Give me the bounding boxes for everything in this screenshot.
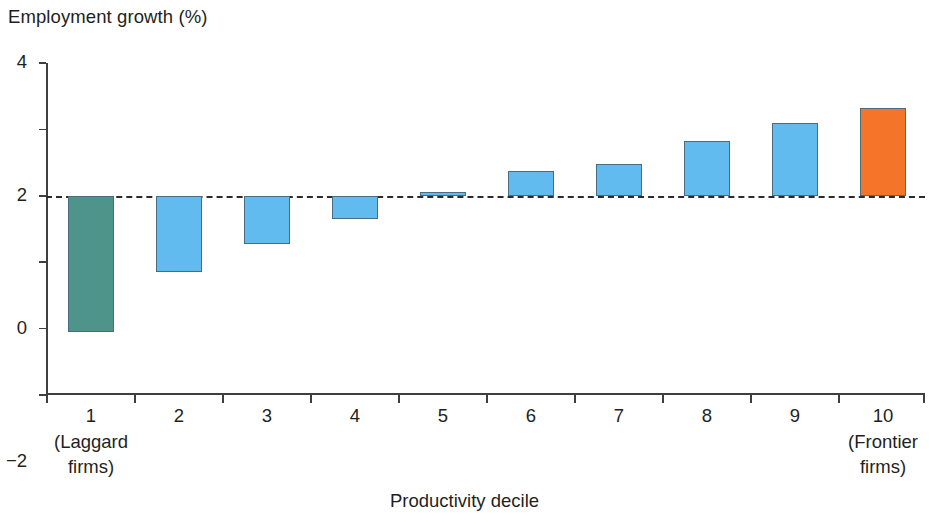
x-tick-8 bbox=[750, 395, 752, 403]
bar-decile-2 bbox=[156, 196, 202, 272]
y-tick-5: −6 bbox=[39, 394, 46, 396]
x-tick-0 bbox=[46, 395, 48, 403]
y-tick-3: −2 bbox=[39, 261, 46, 263]
x-tick-1 bbox=[134, 395, 136, 403]
x-tick-3 bbox=[310, 395, 312, 403]
y-axis-line bbox=[46, 63, 48, 395]
x-sublabel-1-1: firms) bbox=[54, 455, 128, 479]
x-label-value-9: 9 bbox=[790, 405, 800, 426]
x-label-5: 5 bbox=[438, 404, 448, 428]
bar-decile-6 bbox=[508, 171, 554, 196]
x-sublabel-10-0: (Frontier bbox=[848, 430, 918, 454]
x-tick-9 bbox=[838, 395, 840, 403]
x-tick-10 bbox=[923, 395, 925, 403]
chart-figure: Employment growth (%) 420−2−4−6 1(Laggar… bbox=[0, 0, 929, 521]
x-label-1: 1(Laggardfirms) bbox=[54, 404, 128, 479]
x-label-2: 2 bbox=[174, 404, 184, 428]
bar-decile-8 bbox=[684, 141, 730, 196]
x-label-6: 6 bbox=[526, 404, 536, 428]
x-label-value-4: 4 bbox=[350, 405, 360, 426]
x-sublabel-1-0: (Laggard bbox=[54, 430, 128, 454]
y-tick-label-3: −2 bbox=[6, 450, 27, 472]
x-tick-5 bbox=[486, 395, 488, 403]
x-tick-2 bbox=[222, 395, 224, 403]
plot-area: 420−2−4−6 bbox=[46, 63, 925, 395]
y-tick-label-1: 2 bbox=[17, 184, 27, 206]
y-tick-0: 4 bbox=[39, 62, 46, 64]
x-label-8: 8 bbox=[702, 404, 712, 428]
bar-decile-5 bbox=[420, 192, 466, 195]
y-tick-2: 0 bbox=[39, 195, 46, 197]
y-tick-label-0: 4 bbox=[17, 51, 27, 73]
x-label-value-3: 3 bbox=[262, 405, 272, 426]
x-label-value-7: 7 bbox=[614, 405, 624, 426]
x-label-4: 4 bbox=[350, 404, 360, 428]
x-tick-6 bbox=[574, 395, 576, 403]
bar-decile-3 bbox=[244, 196, 290, 244]
x-tick-4 bbox=[398, 395, 400, 403]
x-label-value-1: 1 bbox=[86, 405, 96, 426]
x-label-value-2: 2 bbox=[174, 405, 184, 426]
bar-decile-4 bbox=[332, 196, 378, 219]
x-label-value-6: 6 bbox=[526, 405, 536, 426]
y-tick-label-2: 0 bbox=[17, 317, 27, 339]
x-axis-title: Productivity decile bbox=[0, 490, 929, 512]
y-tick-1: 2 bbox=[39, 129, 46, 131]
bar-decile-1 bbox=[68, 196, 114, 332]
x-label-7: 7 bbox=[614, 404, 624, 428]
x-label-3: 3 bbox=[262, 404, 272, 428]
x-label-9: 9 bbox=[790, 404, 800, 428]
x-label-value-8: 8 bbox=[702, 405, 712, 426]
bar-decile-7 bbox=[596, 164, 642, 196]
bar-decile-9 bbox=[772, 123, 818, 196]
y-axis-title: Employment growth (%) bbox=[8, 6, 208, 28]
x-tick-7 bbox=[662, 395, 664, 403]
x-label-10: 10(Frontierfirms) bbox=[848, 404, 918, 479]
x-label-value-10: 10 bbox=[873, 405, 894, 426]
x-label-value-5: 5 bbox=[438, 405, 448, 426]
bar-decile-10 bbox=[860, 108, 906, 196]
y-tick-4: −4 bbox=[39, 328, 46, 330]
x-sublabel-10-1: firms) bbox=[848, 455, 918, 479]
